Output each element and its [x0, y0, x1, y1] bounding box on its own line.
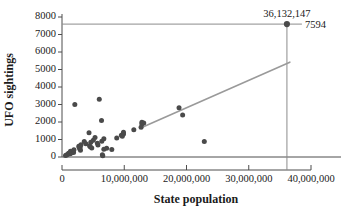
y-axis-tick-labels: 010002000300040005000600070008000 [35, 10, 56, 161]
axis-frame [62, 14, 341, 157]
data-point [121, 130, 126, 135]
data-point [109, 147, 114, 152]
ufo-sightings-scatter-figure: 010002000300040005000600070008000 010,00… [0, 0, 347, 211]
x-axis-tick-marks [62, 165, 311, 170]
y-tick-label: 1000 [35, 133, 56, 144]
data-point [180, 113, 185, 118]
data-point [99, 118, 104, 123]
trend-line [142, 62, 290, 127]
data-point [131, 127, 136, 132]
x-tick-label: 40,000,000 [287, 173, 334, 184]
x-axis-title: State population [154, 192, 239, 206]
data-point [141, 121, 146, 126]
x-tick-label: 10,000,000 [101, 173, 148, 184]
y-tick-label: 3000 [35, 98, 56, 109]
data-point [177, 105, 182, 110]
data-point [95, 143, 100, 148]
y-tick-label: 8000 [35, 10, 56, 21]
data-point [97, 97, 102, 102]
highlighted-data-point[interactable] [284, 21, 290, 27]
x-tick-label: 30,000,000 [225, 173, 272, 184]
data-point [78, 148, 83, 153]
y-tick-label: 6000 [35, 45, 56, 56]
data-point [89, 145, 94, 150]
data-point [104, 146, 109, 151]
data-point [202, 139, 207, 144]
y-tick-label: 0 [51, 150, 56, 161]
data-point [87, 130, 92, 135]
data-point [93, 135, 98, 140]
data-point [72, 102, 77, 107]
highlight-y-annotation: 7594 [305, 19, 327, 30]
scatter-points [63, 97, 207, 159]
chart-canvas: 010002000300040005000600070008000 010,00… [0, 0, 347, 211]
y-tick-label: 5000 [35, 63, 56, 74]
x-axis-tick-labels: 010,000,00020,000,00030,000,00040,000,00… [59, 173, 334, 184]
y-axis-title: UFO sightings [2, 53, 16, 127]
data-point [71, 147, 76, 152]
x-tick-label: 20,000,000 [163, 173, 210, 184]
data-point [101, 136, 106, 141]
y-tick-label: 2000 [35, 115, 56, 126]
y-axis-tick-marks [58, 17, 62, 157]
data-point [100, 153, 105, 158]
x-tick-label: 0 [59, 173, 64, 184]
y-tick-label: 4000 [35, 80, 56, 91]
highlight-x-annotation: 36,132,147 [263, 8, 310, 19]
y-tick-label: 7000 [35, 28, 56, 39]
data-point [114, 136, 119, 141]
